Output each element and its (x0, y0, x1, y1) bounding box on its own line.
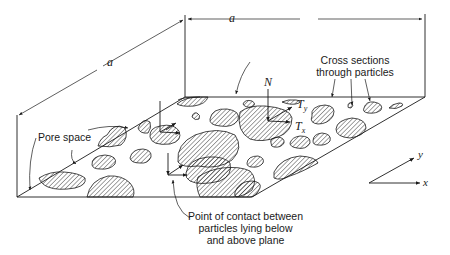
normal-force-label: N (264, 76, 272, 88)
contact-point-line-1: Point of contact between (183, 210, 308, 222)
dimension-label-side: a (107, 56, 113, 68)
particle-cross-sections (39, 97, 403, 197)
contact-point-line-2: particles lying below (183, 222, 308, 234)
y-axis-label: y (418, 148, 423, 160)
tangent-x-label: Tx (295, 120, 305, 137)
contact-point-label: Point of contact between particles lying… (183, 210, 308, 246)
contact-point-line-3: and above plane (183, 234, 308, 246)
pore-space-label: Pore space (38, 131, 91, 143)
cross-sections-line-2: through particles (300, 66, 410, 78)
x-axis-label: x (423, 176, 428, 188)
coordinate-axes (369, 158, 420, 183)
tangent-y-label: Ty (297, 98, 307, 115)
dimension-label-top: a (229, 12, 235, 24)
cross-sections-label: Cross sections through particles (300, 54, 410, 78)
cross-sections-line-1: Cross sections (300, 54, 410, 66)
dimension-side (103, 20, 183, 66)
